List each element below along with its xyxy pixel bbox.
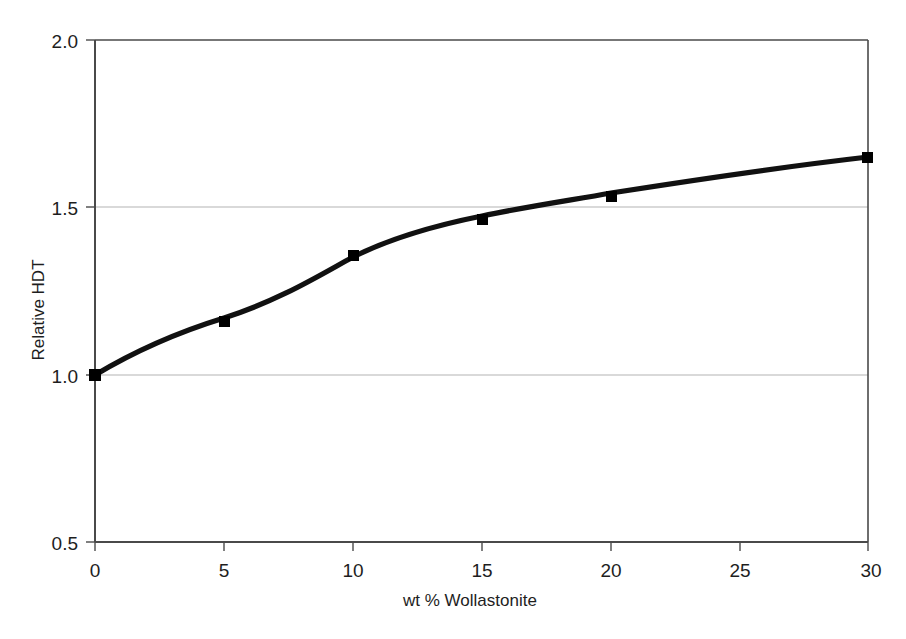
gridlines	[95, 207, 868, 375]
x-tick-label-25: 25	[729, 560, 750, 581]
x-tick-label-10: 10	[342, 560, 363, 581]
y-tick-label-1-5: 1.5	[52, 198, 78, 219]
data-point-0	[89, 369, 101, 381]
x-tick-label-20: 20	[600, 560, 621, 581]
x-tick-label-30: 30	[860, 560, 881, 581]
data-point-5	[219, 316, 230, 327]
plot-frame	[95, 40, 868, 542]
data-point-20	[606, 191, 617, 202]
y-tick-label-1-0: 1.0	[52, 366, 78, 387]
y-tick-marks	[86, 40, 95, 542]
x-tick-label-15: 15	[471, 560, 492, 581]
y-axis-title: Relative HDT	[29, 259, 48, 360]
x-tick-label-5: 5	[219, 560, 230, 581]
x-axis-title: wt % Wollastonite	[402, 591, 537, 610]
data-curve	[95, 157, 868, 375]
y-tick-label-2-0: 2.0	[52, 31, 78, 52]
data-markers	[89, 152, 873, 381]
y-tick-label-0-5: 0.5	[52, 533, 78, 554]
x-tick-labels: 0 5 10 15 20 25 30	[90, 560, 882, 581]
chart-canvas: 2.0 1.5 1.0 0.5 0 5 10 15 20 25 30 wt % …	[0, 0, 906, 639]
data-point-10	[348, 250, 359, 261]
data-point-15	[477, 214, 488, 225]
x-tick-label-0: 0	[90, 560, 101, 581]
y-tick-labels: 2.0 1.5 1.0 0.5	[52, 31, 78, 554]
chart-figure: 2.0 1.5 1.0 0.5 0 5 10 15 20 25 30 wt % …	[0, 0, 906, 639]
x-tick-marks	[95, 542, 868, 551]
data-point-30	[862, 152, 873, 163]
